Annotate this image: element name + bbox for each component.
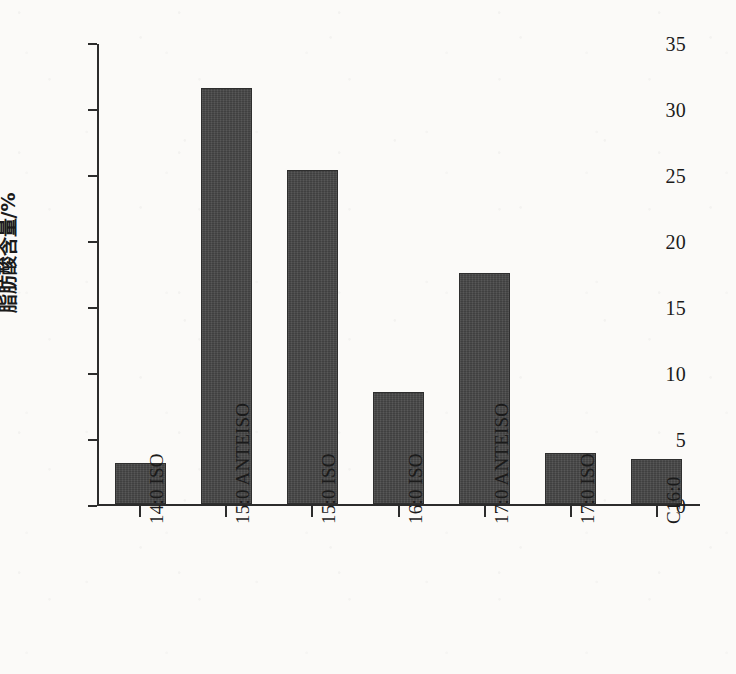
x-axis-tick xyxy=(225,506,227,517)
y-axis-tick xyxy=(88,43,97,45)
x-axis-tick xyxy=(484,506,486,517)
y-axis-tick xyxy=(88,505,97,507)
x-axis-label-slot: 14:0 ISO xyxy=(140,524,141,525)
x-axis-label-slot: 17:0 ISO xyxy=(571,524,572,525)
x-axis-tick xyxy=(570,506,572,517)
x-axis-label-slot: 16:0 ISO xyxy=(399,524,400,525)
x-axis-label-slot: 17:0 ANTEISO xyxy=(485,524,486,525)
x-axis-tick-label: C16:0 xyxy=(664,477,683,524)
x-axis-tick xyxy=(398,506,400,517)
y-axis-tick-label: 15 xyxy=(665,298,686,318)
x-axis-label-slot: 15:0 ISO xyxy=(312,524,313,525)
x-axis-tick-label: 15:0 ANTEISO xyxy=(233,403,252,524)
y-axis-title: 脂肪酸含量/% xyxy=(0,193,20,314)
y-axis-tick-label: 20 xyxy=(665,232,686,252)
y-axis-tick xyxy=(88,241,97,243)
x-axis-tick-label: 16:0 ISO xyxy=(406,453,425,524)
y-axis-tick-label: 35 xyxy=(665,34,686,54)
x-axis-tick-label: 15:0 ISO xyxy=(319,453,338,524)
y-axis-tick-label: 5 xyxy=(676,430,686,450)
bar-chart-figure: 脂肪酸含量/% 05101520253035 14:0 ISO15:0 ANTE… xyxy=(0,0,736,674)
y-axis-tick xyxy=(88,373,97,375)
x-axis-tick xyxy=(311,506,313,517)
y-axis-tick xyxy=(88,175,97,177)
x-axis-tick-label: 17:0 ISO xyxy=(578,453,597,524)
y-axis-tick-label: 10 xyxy=(665,364,686,384)
x-axis-tick-label: 14:0 ISO xyxy=(147,453,166,524)
x-axis-label-slot: C16:0 xyxy=(657,524,658,525)
x-axis-tick xyxy=(656,506,658,517)
x-axis-tick-label: 17:0 ANTEISO xyxy=(492,403,511,524)
x-axis-label-slot: 15:0 ANTEISO xyxy=(226,524,227,525)
y-axis-tick xyxy=(88,439,97,441)
y-axis-tick xyxy=(88,307,97,309)
plot-area: 05101520253035 xyxy=(97,44,700,506)
y-axis-tick-label: 25 xyxy=(665,166,686,186)
y-axis-tick xyxy=(88,109,97,111)
y-axis-tick-label: 30 xyxy=(665,100,686,120)
y-axis-line xyxy=(97,44,99,506)
x-axis-tick xyxy=(139,506,141,517)
